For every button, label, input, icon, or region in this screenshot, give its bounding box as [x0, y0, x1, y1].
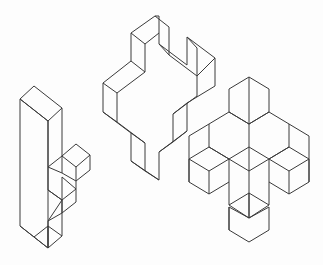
isometric-figure-canvas	[0, 0, 323, 265]
